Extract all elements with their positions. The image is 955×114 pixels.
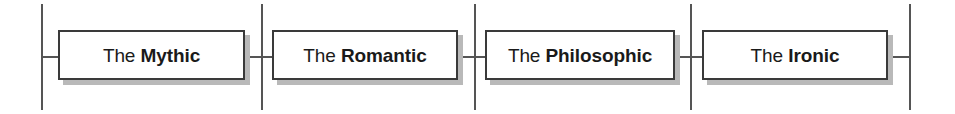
stage-label-lead-philosophic: The [508,45,540,66]
stage-sequence-diagram: The Mythic The Romantic The Philosophic … [0,0,955,114]
stage-label-romantic: The Romantic [303,46,426,65]
stage-label-mythic: The Mythic [103,46,200,65]
stage-box-ironic[interactable]: The Ironic [702,30,888,80]
stage-label-key-ironic: Ironic [788,45,839,66]
stage-label-lead-romantic: The [303,45,335,66]
stage-box-mythic[interactable]: The Mythic [58,30,245,80]
stage-label-lead-ironic: The [751,45,783,66]
stage-box-romantic[interactable]: The Romantic [272,30,458,80]
stage-label-key-philosophic: Philosophic [546,45,653,66]
stage-label-key-mythic: Mythic [141,45,201,66]
stage-label-philosophic: The Philosophic [508,46,652,65]
stage-label-lead-mythic: The [103,45,135,66]
stage-label-key-romantic: Romantic [341,45,427,66]
stage-box-philosophic[interactable]: The Philosophic [485,30,675,80]
stage-label-ironic: The Ironic [751,46,840,65]
